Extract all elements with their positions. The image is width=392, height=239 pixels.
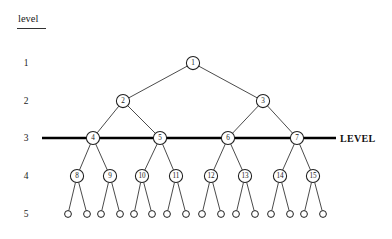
tree-node-label-10: 10 (138, 172, 146, 180)
tree-diagram-figure: level 12345 LEVEL 123456789101112131415 (0, 0, 392, 239)
edge-14-leaf14 (282, 182, 289, 210)
edge-11-leaf7 (168, 182, 175, 210)
edge-1-2 (129, 66, 187, 98)
leaf-node-11 (233, 211, 240, 218)
level-number-1: 1 (24, 58, 29, 68)
leaf-node-3 (98, 211, 105, 218)
leaf-node-9 (199, 211, 206, 218)
leaf-node-5 (131, 211, 138, 218)
edge-7-14 (283, 144, 295, 170)
edge-6-13 (231, 144, 243, 170)
edge-2-5 (128, 106, 156, 134)
tree-node-label-8: 8 (75, 172, 79, 180)
level-number-4: 4 (24, 171, 29, 181)
edge-9-leaf3 (102, 182, 109, 210)
edge-15-leaf15 (305, 182, 312, 210)
leaf-node-15 (301, 211, 308, 218)
level-number-5: 5 (24, 209, 29, 219)
edge-12-leaf10 (213, 182, 220, 210)
leaf-node-14 (287, 211, 294, 218)
edge-7-15 (300, 144, 311, 170)
leaf-node-13 (268, 211, 275, 218)
edge-8-leaf1 (69, 182, 76, 210)
tree-node-label-13: 13 (241, 172, 249, 180)
edge-1-3 (199, 66, 257, 98)
edge-13-leaf12 (247, 182, 254, 210)
edge-11-leaf8 (178, 182, 185, 210)
edge-15-leaf16 (315, 182, 322, 210)
tree-node-label-9: 9 (108, 172, 112, 180)
edge-5-10 (145, 144, 157, 170)
tree-node-label-11: 11 (173, 172, 180, 180)
leaf-node-1 (65, 211, 72, 218)
level-number-column: 12345 (24, 58, 29, 219)
tree-node-label-5: 5 (158, 134, 162, 142)
edge-4-9 (96, 144, 108, 170)
tree-node-label-7: 7 (295, 134, 299, 142)
level-number-3: 3 (24, 133, 29, 143)
tree-node-label-1: 1 (191, 59, 195, 67)
edge-3-6 (233, 106, 259, 133)
tree-node-label-4: 4 (91, 134, 95, 142)
edge-12-leaf9 (203, 182, 210, 210)
edge-10-leaf5 (135, 182, 141, 210)
leaf-node-2 (84, 211, 91, 218)
leaf-node-12 (252, 211, 259, 218)
edge-2-4 (97, 106, 119, 133)
tree-node-label-2: 2 (121, 97, 125, 105)
leaf-node-8 (183, 211, 190, 218)
tree-node-label-3: 3 (261, 97, 265, 105)
leaf-node-16 (320, 211, 327, 218)
edge-4-8 (80, 144, 91, 170)
edge-8-leaf2 (79, 182, 86, 210)
edge-14-leaf13 (272, 182, 279, 210)
level-column-header: level (18, 13, 38, 24)
tree-node-label-15: 15 (309, 172, 317, 180)
edge-13-leaf11 (237, 182, 244, 210)
tree-node-label-12: 12 (207, 172, 215, 180)
leaf-node-4 (117, 211, 124, 218)
edge-5-11 (163, 144, 174, 170)
edge-9-leaf4 (112, 182, 119, 210)
edge-6-12 (214, 144, 226, 170)
level-number-2: 2 (24, 96, 29, 106)
leaf-node-10 (218, 211, 225, 218)
edge-3-7 (267, 106, 292, 133)
leaf-node-7 (164, 211, 171, 218)
tree-node-label-14: 14 (276, 172, 284, 180)
header-group: level (17, 13, 46, 29)
level-line-label: LEVEL (340, 133, 375, 144)
edge-10-leaf6 (144, 182, 151, 210)
leaf-node-6 (149, 211, 156, 218)
tree-diagram-canvas: level 12345 LEVEL 123456789101112131415 (0, 0, 392, 239)
tree-node-label-6: 6 (226, 134, 230, 142)
